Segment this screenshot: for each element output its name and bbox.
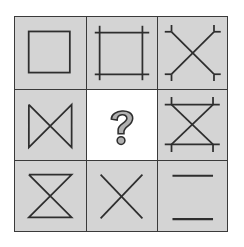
hourglass-icon [15, 161, 86, 231]
question-mark-icon [87, 90, 157, 160]
x-cross-icon [87, 161, 157, 231]
two-lines-icon [158, 161, 228, 231]
forked-x-icon [158, 17, 228, 89]
cell-r3c2-x-cross [87, 161, 158, 231]
cell-r2c1-bowtie [15, 90, 87, 161]
cell-r3c1-hourglass [15, 161, 87, 231]
cell-r2c2-missing [87, 90, 158, 161]
extended-hourglass-icon [158, 90, 228, 160]
square-icon [15, 17, 86, 89]
cell-r1c1-square [15, 17, 87, 90]
cell-r3c3-two-lines [158, 161, 228, 231]
cell-r1c3-forked-x [158, 17, 228, 90]
cell-r1c2-extended-square [87, 17, 158, 90]
cell-r2c3-extended-hourglass [158, 90, 228, 161]
puzzle-grid [14, 16, 228, 232]
bowtie-icon [15, 90, 86, 160]
extended-square-icon [87, 17, 157, 89]
